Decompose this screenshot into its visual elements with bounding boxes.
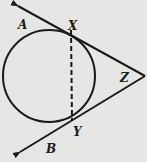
circle [3,30,95,122]
chord-xy-dashed [71,30,72,120]
geometry-diagram: A X Z Y B [0,0,147,162]
label-x: X [67,19,78,33]
tangent-line-za [18,6,145,76]
label-y: Y [73,125,83,139]
tangent-line-zb [20,76,145,152]
label-a: A [17,18,27,32]
label-b: B [45,142,56,156]
label-z: Z [119,71,130,85]
